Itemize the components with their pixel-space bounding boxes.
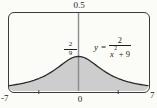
equation-label: y = 2 x2 + 9 — [94, 36, 131, 58]
y-max-tick-label: 0.5 — [73, 0, 84, 10]
x-min-label: -7 — [1, 93, 9, 103]
x-max-label: 7 — [150, 90, 155, 100]
figure-canvas: 0.5 2 9 y = 2 x2 + 9 -7 0 7 — [0, 0, 157, 108]
equation-equals-sign: = — [101, 42, 106, 52]
peak-fraction-denominator: 9 — [64, 50, 77, 58]
equation-lhs-variable: y — [94, 42, 98, 52]
equation-denominator-exponent: 2 — [114, 45, 117, 51]
equation-denominator: x2 + 9 — [109, 46, 131, 58]
peak-value-fraction: 2 9 — [64, 41, 77, 57]
x-zero-label: 0 — [78, 94, 83, 104]
equation-numerator: 2 — [109, 36, 131, 47]
equation-fraction: 2 x2 + 9 — [109, 36, 131, 59]
equation-denominator-constant: + 9 — [117, 48, 130, 58]
